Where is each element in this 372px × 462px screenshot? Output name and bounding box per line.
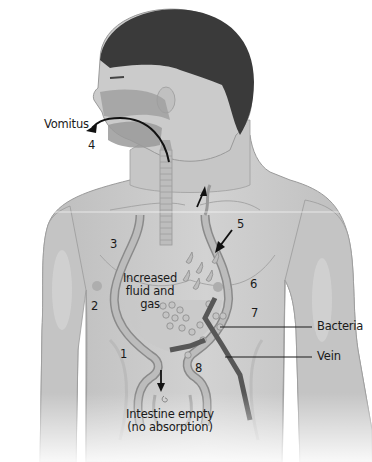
label-increased-line3: gas xyxy=(118,298,182,311)
label-vomitus: Vomitus xyxy=(44,118,89,131)
number-8: 8 xyxy=(195,362,202,375)
number-4: 4 xyxy=(88,139,95,152)
label-bacteria: Bacteria xyxy=(317,320,363,333)
torso-illustration xyxy=(0,0,372,462)
label-intestine-line2: (no absorption) xyxy=(110,421,230,434)
label-increased-fluid-and-gas: Increased fluid and gas xyxy=(118,272,182,311)
label-vein: Vein xyxy=(317,350,341,363)
label-intestine-empty: Intestine empty (no absorption) xyxy=(110,408,230,434)
number-2: 2 xyxy=(91,300,98,313)
number-5: 5 xyxy=(237,218,244,231)
anatomy-diagram: Vomitus 4 5 3 2 1 6 7 8 Increased fluid … xyxy=(0,0,372,462)
number-1: 1 xyxy=(120,348,127,361)
number-6: 6 xyxy=(250,278,257,291)
number-3: 3 xyxy=(110,238,117,251)
number-7: 7 xyxy=(251,307,258,320)
